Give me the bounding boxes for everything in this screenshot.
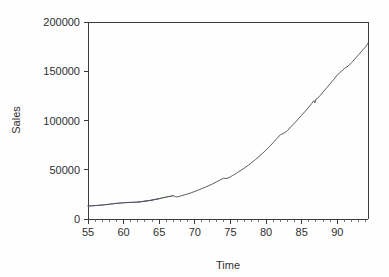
series-line bbox=[88, 43, 368, 206]
x-tick-label: 80 bbox=[260, 226, 272, 238]
y-tick-label: 200000 bbox=[43, 16, 80, 28]
x-tick-label: 75 bbox=[224, 226, 236, 238]
y-axis-title: Sales bbox=[10, 106, 22, 134]
x-axis-tick-labels: 5560657075808590 bbox=[82, 226, 344, 238]
line-chart-svg: 050000100000150000200000 556065707580859… bbox=[0, 0, 389, 277]
y-axis-ticks bbox=[84, 22, 88, 219]
x-tick-label: 70 bbox=[189, 226, 201, 238]
chart-figure: 050000100000150000200000 556065707580859… bbox=[0, 0, 389, 277]
x-axis-ticks bbox=[88, 219, 337, 224]
y-tick-label: 150000 bbox=[43, 65, 80, 77]
x-axis-title: Time bbox=[216, 259, 240, 271]
x-tick-label: 55 bbox=[82, 226, 94, 238]
y-tick-label: 0 bbox=[74, 213, 80, 225]
y-tick-label: 50000 bbox=[49, 164, 80, 176]
y-tick-label: 100000 bbox=[43, 115, 80, 127]
x-tick-label: 90 bbox=[331, 226, 343, 238]
y-axis-tick-labels: 050000100000150000200000 bbox=[43, 16, 80, 225]
x-tick-label: 65 bbox=[153, 226, 165, 238]
x-tick-label: 85 bbox=[296, 226, 308, 238]
chart-axes bbox=[88, 22, 368, 219]
x-tick-label: 60 bbox=[117, 226, 129, 238]
chart-series-group bbox=[88, 43, 368, 206]
